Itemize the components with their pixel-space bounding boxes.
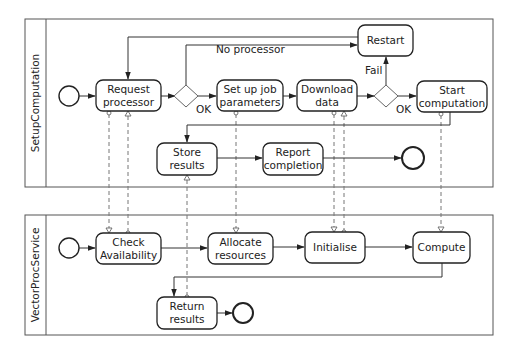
activity-setup-job-parameters[interactable]: Set up job parameters <box>217 80 283 111</box>
activity-label: Set up job <box>223 83 277 95</box>
activity-label: Report <box>276 146 311 158</box>
edge-label-fail: Fail <box>365 64 382 76</box>
activity-label: Compute <box>418 241 466 253</box>
activity-download-data[interactable]: Download data <box>297 80 357 111</box>
bpmn-diagram: SetupComputation VectorProcService <box>0 0 518 354</box>
activity-store-results[interactable]: Store results <box>157 143 217 175</box>
activity-label: Return <box>170 300 205 312</box>
activity-label: parameters <box>220 96 281 108</box>
start-event-service[interactable] <box>59 238 79 258</box>
pool-label: SetupComputation <box>29 54 41 153</box>
edge-label-ok: OK <box>396 103 412 115</box>
activity-label: computation <box>419 97 485 109</box>
activity-label: Check <box>112 236 145 248</box>
edge-label-ok: OK <box>196 103 212 115</box>
edge-label-no-processor: No processor <box>216 43 285 55</box>
activity-label: results <box>169 159 204 171</box>
activity-request-processor[interactable]: Request processor <box>96 80 161 111</box>
activity-label: Availability <box>100 249 157 261</box>
activity-label: results <box>169 313 204 325</box>
activity-compute[interactable]: Compute <box>413 232 470 263</box>
activity-label: Restart <box>367 34 405 46</box>
activity-label: processor <box>103 96 155 108</box>
activity-initialise[interactable]: Initialise <box>305 232 365 263</box>
activity-label: Store <box>173 146 201 158</box>
activity-check-availability[interactable]: Check Availability <box>96 233 161 264</box>
start-event-setup[interactable] <box>59 86 79 106</box>
activity-label: resources <box>215 249 266 261</box>
end-event-service[interactable] <box>233 303 253 323</box>
activity-allocate-resources[interactable]: Allocate resources <box>208 233 273 264</box>
activity-start-computation[interactable]: Start computation <box>417 81 487 112</box>
activity-label: Download <box>301 83 353 95</box>
activity-label: Initialise <box>313 241 357 253</box>
activity-return-results[interactable]: Return results <box>157 297 217 329</box>
activity-label: data <box>315 96 339 108</box>
activity-label: Allocate <box>219 236 261 248</box>
pool-label: VectorProcService <box>29 228 41 323</box>
activity-label: completion <box>264 159 323 171</box>
activity-report-completion[interactable]: Report completion <box>263 143 323 175</box>
activity-restart[interactable]: Restart <box>358 25 413 56</box>
activity-label: Start <box>439 84 465 96</box>
activity-label: Request <box>107 83 150 95</box>
end-event-setup[interactable] <box>402 147 424 169</box>
